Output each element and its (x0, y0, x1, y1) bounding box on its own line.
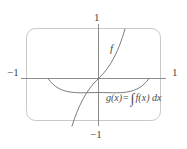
y-axis-tick-label-top: 1 (94, 12, 100, 23)
equals-sign: = (122, 92, 130, 103)
figure-container: 1 −1 −1 1 f g(x)=∫f(x) dx (0, 0, 187, 149)
x-axis-tick-label-right: 1 (172, 67, 178, 78)
y-axis-tick-label-bottom: −1 (90, 129, 102, 140)
g-integrand: f(x) dx (136, 92, 162, 103)
integral-icon: ∫ (130, 91, 136, 106)
curve-label-g: g(x)=∫f(x) dx (106, 93, 161, 103)
curve-label-f: f (110, 43, 113, 54)
g-function-name: g(x) (106, 92, 122, 103)
x-axis-tick-label-left: −1 (7, 67, 19, 78)
plot-frame (27, 29, 161, 121)
